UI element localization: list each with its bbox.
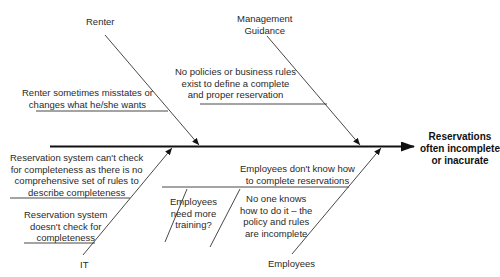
cause-line: Employees don't know how [240, 163, 355, 175]
cause-line: for completeness as there is no [10, 164, 143, 176]
cause-line: changes what he/she wants [22, 99, 153, 111]
category-renter: Renter [86, 16, 115, 28]
cause-line: are incomplete [240, 228, 312, 240]
cause-line: No policies or business rules [175, 66, 296, 78]
category-management-line1: Management [237, 13, 292, 25]
cause-line: to complete reservations [240, 175, 355, 187]
category-management-line2: Guidance [237, 25, 292, 37]
cause-it-1: Reservation system can't check for compl… [10, 152, 143, 198]
cause-line: how to do it – the [240, 205, 312, 217]
cause-line: Employees [170, 196, 217, 208]
cause-employees-1a: Employees need more training? [170, 196, 217, 231]
cause-it-2: Reservation system doesn't check for com… [24, 209, 107, 244]
cause-line: training? [170, 219, 217, 231]
cause-line: comprehensive set of rules to [10, 175, 143, 187]
cause-employees-1b: No one knows how to do it – the policy a… [240, 193, 312, 239]
cause-line: doesn't check for [24, 221, 107, 233]
cause-line: need more [170, 208, 217, 220]
category-it: IT [80, 259, 88, 271]
effect-label: Reservations often incomplete or inacura… [420, 131, 500, 167]
cause-line: and proper reservation [175, 89, 296, 101]
cause-line: describe completeness [10, 187, 143, 199]
cause-line: completeness [24, 232, 107, 244]
cause-line: exist to define a complete [175, 78, 296, 90]
effect-line2: often incomplete [420, 143, 500, 155]
effect-line3: or inacurate [420, 155, 500, 167]
cause-line: Reservation system [24, 209, 107, 221]
cause-line: policy and rules [240, 216, 312, 228]
effect-line1: Reservations [420, 131, 500, 143]
cause-renter-1: Renter sometimes misstates or changes wh… [22, 87, 153, 110]
cause-line: No one knows [240, 193, 312, 205]
category-management: Management Guidance [237, 13, 292, 36]
cause-line: Reservation system can't check [10, 152, 143, 164]
cause-line: Renter sometimes misstates or [22, 87, 153, 99]
cause-management-1: No policies or business rules exist to d… [175, 66, 296, 101]
cause-employees-1: Employees don't know how to complete res… [240, 163, 355, 186]
category-employees: Employees [268, 258, 315, 270]
